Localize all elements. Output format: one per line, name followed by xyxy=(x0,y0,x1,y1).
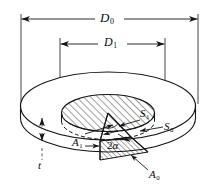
label-outer-area: A0 xyxy=(149,169,160,182)
label-inner-diameter: D1 xyxy=(104,36,117,50)
label-outer-diameter: D0 xyxy=(100,11,114,26)
label-outer-surface: S0 xyxy=(164,121,173,134)
figure-canvas: D0 D1 S1 S0 A1 A0 2α t xyxy=(0,0,216,191)
label-inner-surface: S1 xyxy=(140,108,149,121)
label-inner-area: A1 xyxy=(72,137,83,150)
label-thickness: t xyxy=(38,160,41,171)
leader-a0 xyxy=(131,155,148,170)
diagram-drawing xyxy=(0,0,216,191)
label-sector-angle: 2α xyxy=(107,140,118,151)
